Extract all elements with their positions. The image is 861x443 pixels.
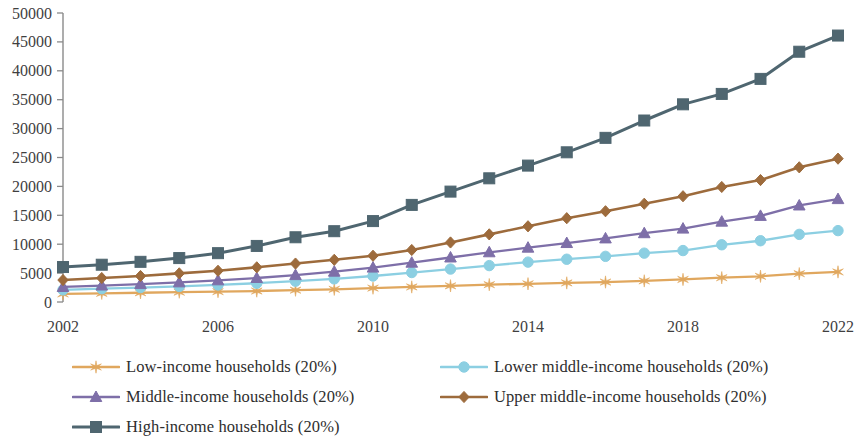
y-tick-label: 45000 <box>12 33 52 50</box>
legend-column-right: Lower middle-income households (20%) Upp… <box>440 352 860 412</box>
income-growth-line-chart: 0500010000150002000025000300003500040000… <box>0 0 861 443</box>
data-point-square <box>290 232 301 243</box>
data-point-diamond <box>459 391 469 402</box>
data-point-square <box>135 256 146 267</box>
lower-middle-income-marker-icon <box>440 358 488 376</box>
data-point-diamond <box>600 206 610 217</box>
y-tick-label: 50000 <box>12 5 52 22</box>
y-tick-label: 15000 <box>12 207 52 224</box>
x-tick-label: 2006 <box>202 318 234 335</box>
data-point-diamond <box>135 270 145 281</box>
data-point-circle <box>794 229 804 239</box>
data-point-square <box>833 30 844 41</box>
data-point-triangle <box>832 193 844 204</box>
data-point-square <box>96 259 107 270</box>
data-point-square <box>58 262 69 273</box>
data-point-diamond <box>755 174 765 185</box>
data-point-diamond <box>562 213 572 224</box>
chart-canvas: 0500010000150002000025000300003500040000… <box>0 0 861 345</box>
upper-middle-income-marker-icon <box>440 388 488 406</box>
data-point-diamond <box>368 250 378 261</box>
legend-column-left: Low-income households (20%) Middle-incom… <box>72 352 472 442</box>
data-point-diamond <box>445 237 455 248</box>
data-point-square <box>91 422 102 433</box>
data-point-circle <box>717 240 727 250</box>
data-point-diamond <box>639 198 649 209</box>
data-point-square <box>716 88 727 99</box>
data-point-square <box>755 73 766 84</box>
y-axis: 0500010000150002000025000300003500040000… <box>12 5 63 311</box>
legend-item-lower-middle-income[interactable]: Lower middle-income households (20%) <box>440 352 860 382</box>
data-point-circle <box>678 245 688 255</box>
y-tick-label: 25000 <box>12 149 52 166</box>
data-point-diamond <box>213 265 223 276</box>
data-point-square <box>523 160 534 171</box>
data-point-circle <box>833 225 843 235</box>
data-point-diamond <box>97 272 107 283</box>
data-point-square <box>368 216 379 227</box>
data-point-square <box>406 199 417 210</box>
x-tick-label: 2002 <box>47 318 79 335</box>
legend-item-high-income[interactable]: High-income households (20%) <box>72 412 472 442</box>
data-point-circle <box>600 251 610 261</box>
data-point-circle <box>523 257 533 267</box>
legend-item-low-income[interactable]: Low-income households (20%) <box>72 352 472 382</box>
data-point-diamond <box>58 274 68 285</box>
data-point-circle <box>639 248 649 258</box>
y-tick-label: 10000 <box>12 236 52 253</box>
legend-label-lower-middle-income: Lower middle-income households (20%) <box>494 357 768 377</box>
data-point-circle <box>459 362 469 372</box>
data-point-diamond <box>833 153 843 164</box>
data-point-circle <box>407 267 417 277</box>
data-point-diamond <box>174 268 184 279</box>
data-point-square <box>445 186 456 197</box>
y-tick-label: 35000 <box>12 91 52 108</box>
y-tick-label: 40000 <box>12 62 52 79</box>
legend-label-high-income: High-income households (20%) <box>126 417 340 437</box>
high-income-marker-icon <box>72 418 120 436</box>
data-point-circle <box>445 264 455 274</box>
data-point-square <box>561 147 572 158</box>
data-point-circle <box>484 260 494 270</box>
data-point-square <box>794 46 805 57</box>
x-tick-label: 2018 <box>667 318 699 335</box>
data-point-square <box>329 226 340 237</box>
y-tick-label: 0 <box>44 294 52 311</box>
series-layer <box>57 30 844 300</box>
middle-income-marker-icon <box>72 388 120 406</box>
x-tick-label: 2010 <box>357 318 389 335</box>
data-point-diamond <box>290 258 300 269</box>
plot-area: 0500010000150002000025000300003500040000… <box>0 0 861 345</box>
legend-item-middle-income[interactable]: Middle-income households (20%) <box>72 382 472 412</box>
data-point-square <box>600 132 611 143</box>
legend-item-upper-middle-income[interactable]: Upper middle-income households (20%) <box>440 382 860 412</box>
x-tick-label: 2022 <box>822 318 854 335</box>
data-point-diamond <box>523 221 533 232</box>
data-point-square <box>484 173 495 184</box>
data-point-diamond <box>794 162 804 173</box>
data-point-diamond <box>252 262 262 273</box>
data-point-square <box>213 248 224 259</box>
data-point-square <box>639 115 650 126</box>
legend-label-low-income: Low-income households (20%) <box>126 357 337 377</box>
data-point-diamond <box>329 254 339 265</box>
y-tick-label: 20000 <box>12 178 52 195</box>
x-tick-label: 2014 <box>512 318 544 335</box>
data-point-diamond <box>484 229 494 240</box>
data-point-circle <box>755 236 765 246</box>
data-point-diamond <box>678 191 688 202</box>
data-point-square <box>678 99 689 110</box>
legend-label-middle-income: Middle-income households (20%) <box>126 387 354 407</box>
low-income-marker-icon <box>72 358 120 376</box>
data-point-square <box>251 240 262 251</box>
y-tick-label: 30000 <box>12 120 52 137</box>
data-point-diamond <box>717 181 727 192</box>
data-point-circle <box>562 254 572 264</box>
data-point-square <box>174 253 185 264</box>
x-axis: 200220062010201420182022 <box>47 318 854 335</box>
data-point-diamond <box>407 244 417 255</box>
legend-label-upper-middle-income: Upper middle-income households (20%) <box>494 387 767 407</box>
chart-legend: Low-income households (20%) Middle-incom… <box>0 352 861 443</box>
y-tick-label: 5000 <box>20 265 52 282</box>
